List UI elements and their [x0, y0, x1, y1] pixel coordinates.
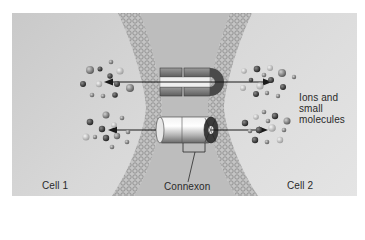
ions-label-line2: small	[299, 103, 359, 114]
molecules-cell1-top	[80, 60, 134, 99]
ions-label: Ions and small molecules	[299, 92, 359, 125]
molecules-cell2-bottom	[242, 110, 291, 145]
ions-label-line1: Ions and	[299, 92, 359, 103]
connexon-label: Connexon	[164, 181, 210, 192]
cell1-label: Cell 1	[42, 180, 68, 191]
cell2-label: Cell 2	[287, 180, 313, 191]
ions-label-line3: molecules	[299, 114, 359, 125]
